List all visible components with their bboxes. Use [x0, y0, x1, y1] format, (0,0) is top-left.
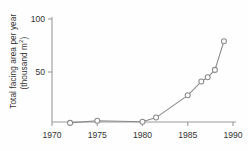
x-tick-label: 1980 — [123, 130, 163, 140]
data-point-marker — [212, 67, 217, 72]
data-point-marker — [95, 118, 100, 123]
chart-figure: Total facing area per year (thousand m2)… — [0, 0, 248, 151]
data-point-marker — [199, 79, 204, 84]
y-tick-label: 100 — [19, 14, 45, 24]
data-point-marker — [205, 75, 210, 80]
axis-lines — [52, 17, 236, 122]
x-tick-label: 1990 — [213, 130, 248, 140]
data-point-marker — [154, 115, 159, 120]
data-point-marker — [68, 120, 73, 125]
data-point-markers — [68, 39, 227, 126]
y-tick-label: 50 — [19, 67, 45, 77]
x-tick-label: 1970 — [32, 130, 72, 140]
data-point-marker — [185, 93, 190, 98]
y-axis-ticks — [48, 19, 52, 72]
x-tick-label: 1985 — [168, 130, 208, 140]
x-tick-label: 1975 — [77, 130, 117, 140]
data-point-marker — [140, 119, 145, 124]
data-point-marker — [221, 39, 226, 44]
